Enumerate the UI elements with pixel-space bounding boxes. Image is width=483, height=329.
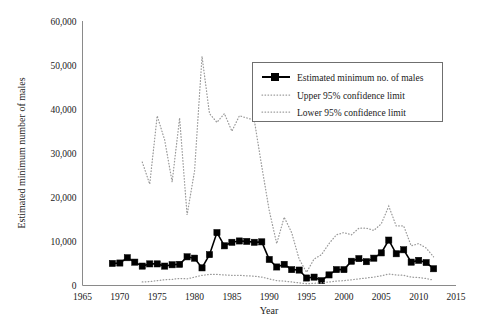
data-point-marker [162, 263, 168, 269]
x-axis-title: Year [260, 305, 279, 316]
data-point-marker [311, 274, 317, 280]
y-tick-label: 40,000 [50, 105, 76, 115]
y-tick-label: 30,000 [50, 149, 76, 159]
legend: Estimated minimum no. of males Upper 95%… [253, 63, 443, 122]
series-lower-ci [142, 274, 433, 284]
line-chart: 010,00020,00030,00040,00050,00060,000 19… [0, 0, 483, 329]
data-point-marker [386, 237, 392, 243]
y-tick-label: 20,000 [50, 193, 76, 203]
y-tick-label: 0 [72, 281, 77, 291]
x-tick-label: 2005 [372, 292, 391, 302]
data-point-marker [154, 261, 160, 267]
data-point-marker [147, 261, 153, 267]
x-tick-label: 1980 [185, 292, 204, 302]
data-point-marker [251, 239, 257, 245]
data-point-marker [371, 255, 377, 261]
y-tick-label: 60,000 [50, 17, 76, 27]
y-axis-title: Estimated minimum number of males [16, 77, 27, 228]
data-point-marker [184, 254, 190, 260]
data-point-marker [281, 261, 287, 267]
legend-swatch-square [271, 73, 279, 81]
data-point-marker [199, 265, 205, 271]
series-main [109, 230, 436, 284]
data-point-marker [363, 259, 369, 265]
data-point-marker [401, 247, 407, 253]
x-tick-label: 1975 [148, 292, 167, 302]
data-point-marker [236, 238, 242, 244]
data-point-marker [341, 267, 347, 273]
y-tick-labels: 010,00020,00030,00040,00050,00060,000 [50, 17, 76, 292]
x-tick-label: 1970 [110, 292, 129, 302]
legend-label-upper: Upper 95% confidence limit [297, 91, 405, 101]
chart-figure: 010,00020,00030,00040,00050,00060,000 19… [0, 0, 483, 329]
data-point-marker [274, 264, 280, 270]
data-point-marker [423, 259, 429, 265]
data-point-marker [177, 261, 183, 267]
data-point-marker [191, 255, 197, 261]
x-tick-label: 1985 [222, 292, 241, 302]
data-point-marker [244, 238, 250, 244]
data-point-marker [356, 256, 362, 262]
data-point-marker [229, 239, 235, 245]
data-point-marker [266, 256, 272, 262]
data-point-marker [214, 230, 220, 236]
x-tick-label: 2015 [447, 292, 466, 302]
series-path [112, 233, 433, 281]
x-tick-label: 2000 [334, 292, 353, 302]
data-point-marker [259, 239, 265, 245]
y-tick-label: 50,000 [50, 61, 76, 71]
data-point-marker [393, 251, 399, 257]
x-tick-label: 2010 [409, 292, 428, 302]
data-point-marker [296, 267, 302, 273]
data-point-marker [289, 267, 295, 273]
data-point-marker [408, 259, 414, 265]
data-point-marker [378, 250, 384, 256]
x-tick-label: 1995 [297, 292, 316, 302]
data-point-marker [326, 272, 332, 278]
data-point-marker [124, 255, 130, 261]
data-point-marker [139, 263, 145, 269]
data-point-marker [416, 257, 422, 263]
x-tick-label: 1965 [73, 292, 92, 302]
legend-label-main: Estimated minimum no. of males [297, 73, 424, 83]
data-point-marker [169, 262, 175, 268]
data-point-marker [132, 259, 138, 265]
data-point-marker [117, 260, 123, 266]
x-tick-labels: 1965197019751980198519901995200020052010… [73, 292, 466, 302]
x-tick-label: 1990 [260, 292, 279, 302]
data-point-marker [333, 267, 339, 273]
data-point-marker [430, 266, 436, 272]
data-point-marker [304, 275, 310, 281]
data-point-marker [109, 260, 115, 266]
legend-label-lower: Lower 95% confidence limit [297, 108, 406, 118]
data-point-marker [206, 252, 212, 258]
data-point-marker [348, 258, 354, 264]
data-point-marker [221, 243, 227, 249]
series-path [142, 274, 433, 284]
y-tick-label: 10,000 [50, 237, 76, 247]
